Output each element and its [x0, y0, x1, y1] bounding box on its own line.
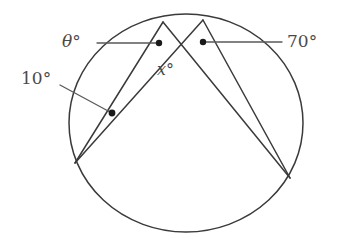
chord-apex-right-to-base-left	[75, 20, 203, 163]
theta-angle-label: θ°	[62, 33, 81, 50]
x-angle-label: x°	[157, 62, 174, 78]
ten-leader-line	[60, 85, 110, 112]
x-angle-degree-sign: °	[166, 60, 174, 79]
theta-angle-dot	[156, 40, 162, 46]
ten-degree-label: 10°	[21, 70, 51, 87]
chord-apex-right-to-base-right	[203, 20, 290, 178]
x-angle-symbol: x	[157, 60, 166, 79]
seventy-degree-label: 70°	[287, 33, 317, 50]
geometry-diagram: θ° 70° 10° x°	[0, 0, 338, 251]
ten-angle-dot	[109, 110, 116, 117]
seventy-angle-dot	[200, 39, 206, 45]
chord-apex-left-to-base-right	[163, 22, 290, 178]
circle-outline	[69, 14, 303, 232]
